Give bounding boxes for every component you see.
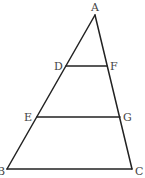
segment-ab [7, 15, 95, 169]
segment-ac [95, 15, 132, 169]
label-d: D [54, 60, 63, 73]
label-a: A [90, 1, 100, 14]
label-e: E [24, 111, 32, 124]
triangle-diagram: A D F E G B C [0, 0, 145, 178]
label-g: G [123, 111, 132, 124]
label-b: B [0, 165, 5, 178]
label-f: F [110, 60, 118, 73]
label-c: C [135, 165, 143, 178]
